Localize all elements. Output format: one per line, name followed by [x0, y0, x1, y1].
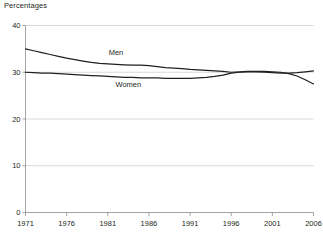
y-axis-label-40: 40	[12, 21, 20, 30]
x-axis-label-1981: 1981	[99, 219, 116, 228]
y-axis-label-10: 10	[12, 161, 20, 170]
chart-plot-area: 0102030401971197619811986199119962001200…	[0, 0, 323, 240]
x-axis-label-1991: 1991	[182, 219, 199, 228]
line-chart: Percentages 0102030401971197619811986199…	[0, 0, 323, 240]
x-axis-label-1976: 1976	[58, 219, 75, 228]
series-label-women: Women	[115, 80, 141, 89]
y-axis-label-30: 30	[12, 68, 20, 77]
y-axis-label-20: 20	[12, 115, 20, 124]
y-axis-label-0: 0	[16, 208, 20, 217]
series-label-men: Men	[109, 48, 124, 57]
x-axis-label-2001: 2001	[264, 219, 281, 228]
x-axis-label-1996: 1996	[223, 219, 240, 228]
x-axis-label-1986: 1986	[141, 219, 158, 228]
x-axis-label-2006: 2006	[305, 219, 322, 228]
x-axis-label-1971: 1971	[17, 219, 34, 228]
